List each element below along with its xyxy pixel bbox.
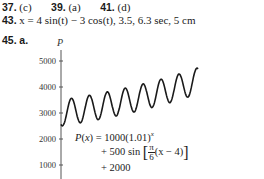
svg-text:3000: 3000 bbox=[39, 108, 56, 118]
svg-text:1000: 1000 bbox=[39, 160, 56, 170]
formula: P(x)P(x) = 1000(1.01) = 1000(1.01)x + 50… bbox=[75, 129, 189, 173]
y-axis-label: P bbox=[56, 37, 63, 48]
formula-line-1: P(x)P(x) = 1000(1.01) = 1000(1.01)x bbox=[75, 129, 189, 143]
p-curve bbox=[61, 68, 198, 126]
svg-text:5000: 5000 bbox=[39, 56, 56, 66]
y-ticks: 5000 4000 3000 2000 1000 bbox=[39, 56, 63, 170]
svg-text:2000: 2000 bbox=[39, 134, 56, 144]
formula-line-3: + 2000 bbox=[75, 162, 189, 173]
svg-text:4000: 4000 bbox=[39, 82, 56, 92]
formula-line-2: + 500 sin [π6(x − 4)] bbox=[75, 143, 189, 162]
